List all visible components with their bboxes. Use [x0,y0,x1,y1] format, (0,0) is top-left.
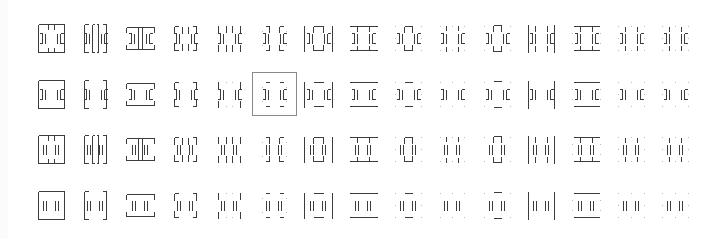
glyph-icon [526,134,557,165]
glyph-icon [36,23,67,54]
glyph-cell-side-bars-cap-double-bar[interactable] [297,128,342,172]
glyph-cell-full-box-bracket[interactable] [29,17,74,61]
glyph-cell-top-bottom-notched-double-bar[interactable] [118,128,163,172]
glyph-cell-center-cap-dots-bracket[interactable] [386,72,431,116]
glyph-cell-top-bottom-notched-double-bar[interactable] [118,183,163,227]
glyph-cell-top-bottom-notched-bracket[interactable] [118,17,163,61]
glyph-cell-center-cap-dots-double-bar[interactable] [386,183,431,227]
glyph-icon [571,134,602,165]
glyph-icon [259,134,290,165]
glyph-icon [303,134,334,165]
glyph-cell-dots-ticks-bracket[interactable] [609,72,654,116]
glyph-cell-split-box-bracket[interactable] [74,72,119,116]
glyph-icon [482,23,513,54]
glyph-icon [393,23,424,54]
glyph-icon [170,23,201,54]
glyph-cell-split-box-double-bar[interactable] [74,128,119,172]
glyph-cell-top-bottom-bars-bracket[interactable] [341,17,386,61]
glyph-icon [214,79,245,110]
glyph-cell-top-bottom-notched-bracket[interactable] [118,72,163,116]
glyph-icon [80,79,111,110]
glyph-icon [482,79,513,110]
glyph-cell-dots-ticks-double-bar[interactable] [609,183,654,227]
glyph-icon [214,134,245,165]
glyph-cell-side-ticks-double-bar[interactable] [207,183,252,227]
glyph-cell-dots-only-bars-bracket[interactable] [430,17,475,61]
glyph-cell-top-bottom-bars-light-double-bar[interactable] [564,183,609,227]
glyph-cell-center-cap-dots-light-bracket[interactable] [475,17,520,61]
glyph-cell-dots-only-bars-bracket[interactable] [430,72,475,116]
glyph-cell-split-ticks-dots-double-bar[interactable] [252,183,297,227]
glyph-cell-top-bottom-bars-light-bracket[interactable] [564,17,609,61]
glyph-cell-side-bars-tall-double-bar[interactable] [520,183,565,227]
glyph-icon [437,79,468,110]
glyph-cell-center-cap-dots-light-double-bar[interactable] [475,128,520,172]
glyph-icon [125,79,156,110]
glyph-cell-side-bars-tall-bracket[interactable] [520,17,565,61]
glyph-icon [348,79,379,110]
glyph-icon [348,23,379,54]
glyph-icon [259,190,290,221]
glyph-cell-dots-ticks-double-bar[interactable] [609,128,654,172]
glyph-icon [214,190,245,221]
glyph-cell-split-notched-double-bar[interactable] [163,128,208,172]
glyph-cell-dots-ticks-bracket[interactable] [609,17,654,61]
glyph-cell-side-ticks-bracket[interactable] [207,17,252,61]
glyph-icon [616,190,647,221]
glyph-cell-dots-ticks-end-double-bar[interactable] [653,128,698,172]
glyph-cell-dots-ticks-end-double-bar[interactable] [653,183,698,227]
glyph-cell-split-box-double-bar[interactable] [74,183,119,227]
glyph-icon [125,23,156,54]
glyph-cell-top-bottom-bars-bracket[interactable] [341,72,386,116]
glyph-cell-split-notched-double-bar[interactable] [163,183,208,227]
glyph-icon [482,134,513,165]
glyph-cell-dots-ticks-end-bracket[interactable] [653,17,698,61]
glyph-icon [393,134,424,165]
glyph-cell-center-cap-dots-light-double-bar[interactable] [475,183,520,227]
glyph-cell-side-bars-cap-bracket[interactable] [297,72,342,116]
glyph-cell-full-box-double-bar[interactable] [29,128,74,172]
glyph-cell-dots-only-bars-double-bar[interactable] [430,183,475,227]
glyph-cell-top-bottom-bars-light-bracket[interactable] [564,72,609,116]
glyph-cell-split-notched-bracket[interactable] [163,72,208,116]
glyph-cell-dots-ticks-end-bracket[interactable] [653,72,698,116]
glyph-icon [660,190,691,221]
glyph-icon [36,190,67,221]
glyph-cell-side-ticks-double-bar[interactable] [207,128,252,172]
glyph-cell-dots-only-bars-double-bar[interactable] [430,128,475,172]
glyph-icon [36,134,67,165]
glyph-grid [29,11,698,233]
glyph-cell-split-ticks-dots-double-bar[interactable] [252,128,297,172]
glyph-row [29,122,698,178]
glyph-cell-side-bars-tall-bracket[interactable] [520,72,565,116]
glyph-row [29,67,698,123]
glyph-icon [660,79,691,110]
glyph-cell-side-bars-tall-double-bar[interactable] [520,128,565,172]
glyph-icon [393,79,424,110]
glyph-cell-side-bars-cap-bracket[interactable] [297,17,342,61]
glyph-cell-split-notched-bracket[interactable] [163,17,208,61]
glyph-icon [437,190,468,221]
glyph-icon [660,134,691,165]
glyph-cell-top-bottom-bars-double-bar[interactable] [341,183,386,227]
glyph-cell-side-ticks-bracket[interactable] [207,72,252,116]
glyph-cell-side-bars-cap-double-bar[interactable] [297,183,342,227]
glyph-cell-center-cap-dots-double-bar[interactable] [386,128,431,172]
glyph-cell-top-bottom-bars-light-double-bar[interactable] [564,128,609,172]
glyph-cell-split-box-bracket[interactable] [74,17,119,61]
glyph-cell-center-cap-dots-bracket[interactable] [386,17,431,61]
glyph-icon [526,190,557,221]
glyph-icon [437,23,468,54]
glyph-cell-top-bottom-bars-double-bar[interactable] [341,128,386,172]
glyph-icon [259,79,290,110]
glyph-cell-full-box-bracket[interactable] [29,72,74,116]
glyph-cell-split-ticks-dots-bracket[interactable] [252,17,297,61]
glyph-icon [571,79,602,110]
glyph-cell-full-box-double-bar[interactable] [29,183,74,227]
glyph-icon [80,134,111,165]
glyph-icon [616,79,647,110]
glyph-cell-center-cap-dots-light-bracket[interactable] [475,72,520,116]
glyph-cell-split-ticks-dots-bracket[interactable] [252,72,297,116]
glyph-icon [660,23,691,54]
glyph-icon [393,190,424,221]
